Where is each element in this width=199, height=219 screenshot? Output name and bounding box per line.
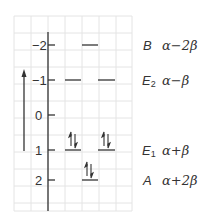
energy-label-b: α−2β [162,39,197,52]
energy-label-e1: α+β [162,144,189,157]
tick-label: 1 [35,144,42,157]
tick-label: −1 [32,74,47,87]
energy-axis [48,32,55,211]
mo-diagram: −2 −1 0 1 2 B α−2β E2 α−β E1 α+β A α+2β [0,0,199,219]
electron-pair-icon [69,132,110,178]
symmetry-label-e2: E2 [142,74,156,89]
tick-label: −2 [32,39,47,52]
tick-label: 2 [35,174,42,187]
energy-label-e2: α−β [162,74,189,87]
symmetry-label-b: B [143,39,152,52]
symmetry-label-a: A [143,174,152,187]
energy-arrow-icon [22,69,27,151]
orbital-levels [65,45,115,180]
energy-label-a: α+2β [162,174,197,187]
symmetry-label-e1: E1 [142,144,156,159]
tick-label: 0 [35,109,42,122]
